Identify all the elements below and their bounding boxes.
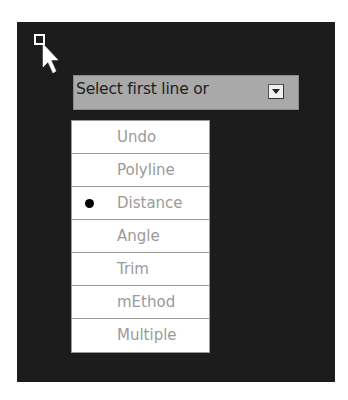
- prompt-text: Select first line or: [76, 80, 209, 98]
- command-prompt-tooltip: Select first line or: [73, 75, 299, 110]
- menu-item-label: Angle: [117, 227, 160, 245]
- command-options-menu: Undo Polyline Distance Angle Trim mEthod…: [71, 120, 210, 353]
- menu-item-trim[interactable]: Trim: [72, 253, 209, 286]
- menu-item-label: Undo: [117, 128, 156, 146]
- menu-item-label: Trim: [117, 260, 149, 278]
- menu-item-distance[interactable]: Distance: [72, 187, 209, 220]
- pickbox-arrow-cursor-icon: [33, 33, 63, 83]
- dropdown-button[interactable]: [268, 84, 284, 99]
- dropdown-arrow-icon: [272, 89, 280, 94]
- menu-item-label: mEthod: [117, 293, 175, 311]
- menu-item-label: Distance: [117, 194, 183, 212]
- menu-item-multiple[interactable]: Multiple: [72, 319, 209, 352]
- menu-item-polyline[interactable]: Polyline: [72, 154, 209, 187]
- menu-item-undo[interactable]: Undo: [72, 121, 209, 154]
- menu-item-method[interactable]: mEthod: [72, 286, 209, 319]
- menu-item-label: Multiple: [117, 326, 177, 344]
- selected-bullet-icon: [85, 199, 94, 208]
- menu-item-angle[interactable]: Angle: [72, 220, 209, 253]
- menu-item-label: Polyline: [117, 161, 175, 179]
